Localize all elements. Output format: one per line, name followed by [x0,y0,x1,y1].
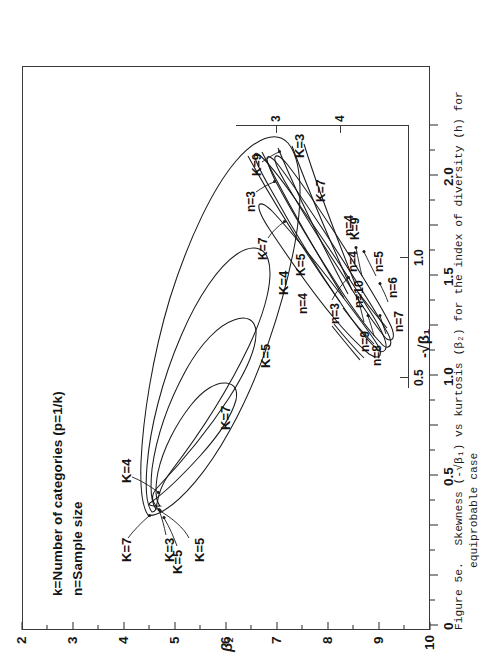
caption-line-2: equiprobable case [467,30,482,630]
y-tick-label-3: 5 [167,636,182,644]
y-tick-label-8: 10 [422,635,437,650]
y-tick-label-1: 3 [65,636,80,644]
caption-label: Figure 5e. [453,562,465,630]
figure-page: k=Number of categories (p=1/k) n=Sample … [0,0,502,658]
caption-line-1: Skewness (-√β₁) vs kurtosis (β₂) for the… [453,91,465,545]
y-tick-label-6: 8 [320,636,335,644]
y-axis-label-text: β₂ [218,637,235,652]
y-axis-ticks [0,0,502,658]
figure-caption: Figure 5e. Skewness (-√β₁) vs kurtosis (… [452,30,482,630]
y-tick-label-0: 2 [14,636,29,644]
y-tick-label-7: 9 [371,636,386,644]
rotated-page: k=Number of categories (p=1/k) n=Sample … [0,0,502,658]
y-tick-label-2: 4 [116,636,131,644]
y-axis-label: β₂ [218,637,235,652]
y-tick-label-5: 7 [269,636,284,644]
